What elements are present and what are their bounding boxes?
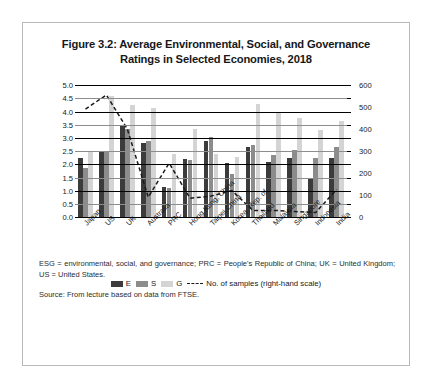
y-axis-right-tick-label: 100 [359, 191, 372, 200]
y-axis-right-tick-label: 400 [359, 125, 372, 134]
figure-title-line-1: Figure 3.2: Average Environmental, Socia… [39, 37, 393, 52]
gridline [75, 164, 347, 165]
figure-title-line-2: Ratings in Selected Economies, 2018 [39, 52, 393, 67]
y-axis-left-tick-label: 0.0 [62, 213, 73, 222]
y-axis-right-tick-mark [347, 98, 351, 99]
y-axis-right-tick-mark [347, 138, 351, 139]
y-axis-left-tick-label: 4.5 [62, 94, 73, 103]
y-axis-right: 0100200300400500600 [353, 85, 393, 217]
figure-card: Figure 3.2: Average Environmental, Socia… [22, 22, 410, 366]
chart-plot-area: 0.00.51.01.52.02.53.03.54.04.55.0 010020… [23, 79, 409, 229]
gridline [75, 112, 347, 113]
y-axis-left-tick-label: 2.5 [62, 147, 73, 156]
gridline [75, 178, 347, 179]
y-axis-right-tick-label: 0 [359, 213, 363, 222]
y-axis-left-tick-label: 2.0 [62, 160, 73, 169]
gridline [75, 125, 347, 126]
figure-notes: ESG = environmental, social, and governa… [39, 259, 395, 301]
figure-title: Figure 3.2: Average Environmental, Socia… [39, 37, 393, 67]
y-axis-left-tick-label: 1.5 [62, 173, 73, 182]
y-axis-right-tick-mark [347, 112, 351, 113]
y-axis-left-tick-label: 3.5 [62, 120, 73, 129]
note-source: Source: From lecture based on data from … [39, 290, 395, 301]
y-axis-left: 0.00.51.01.52.02.53.03.54.04.55.0 [33, 85, 73, 217]
gridline [75, 98, 347, 99]
y-axis-left-tick-label: 0.5 [62, 200, 73, 209]
y-axis-right-tick-mark [347, 151, 351, 152]
y-axis-left-tick-label: 3.0 [62, 134, 73, 143]
y-axis-right-tick-mark [347, 125, 351, 126]
y-axis-left-tick-label: 5.0 [62, 81, 73, 90]
y-axis-right-tick-label: 200 [359, 169, 372, 178]
gridline [75, 85, 347, 86]
y-axis-right-tick-mark [347, 85, 351, 86]
y-axis-right-tick-label: 300 [359, 147, 372, 156]
gridline [75, 138, 347, 139]
y-axis-right-tick-mark [347, 164, 351, 165]
y-axis-left-tick-label: 4.0 [62, 107, 73, 116]
y-axis-right-tick-mark [347, 178, 351, 179]
gridline [75, 151, 347, 152]
gridline [75, 191, 347, 192]
y-axis-right-tick-mark [347, 204, 351, 205]
y-axis-left-tick-label: 1.0 [62, 186, 73, 195]
y-axis-right-tick-label: 600 [359, 81, 372, 90]
y-axis-right-tick-label: 500 [359, 103, 372, 112]
y-axis-right-tick-mark [347, 191, 351, 192]
note-abbreviations: ESG = environmental, social, and governa… [39, 259, 395, 281]
